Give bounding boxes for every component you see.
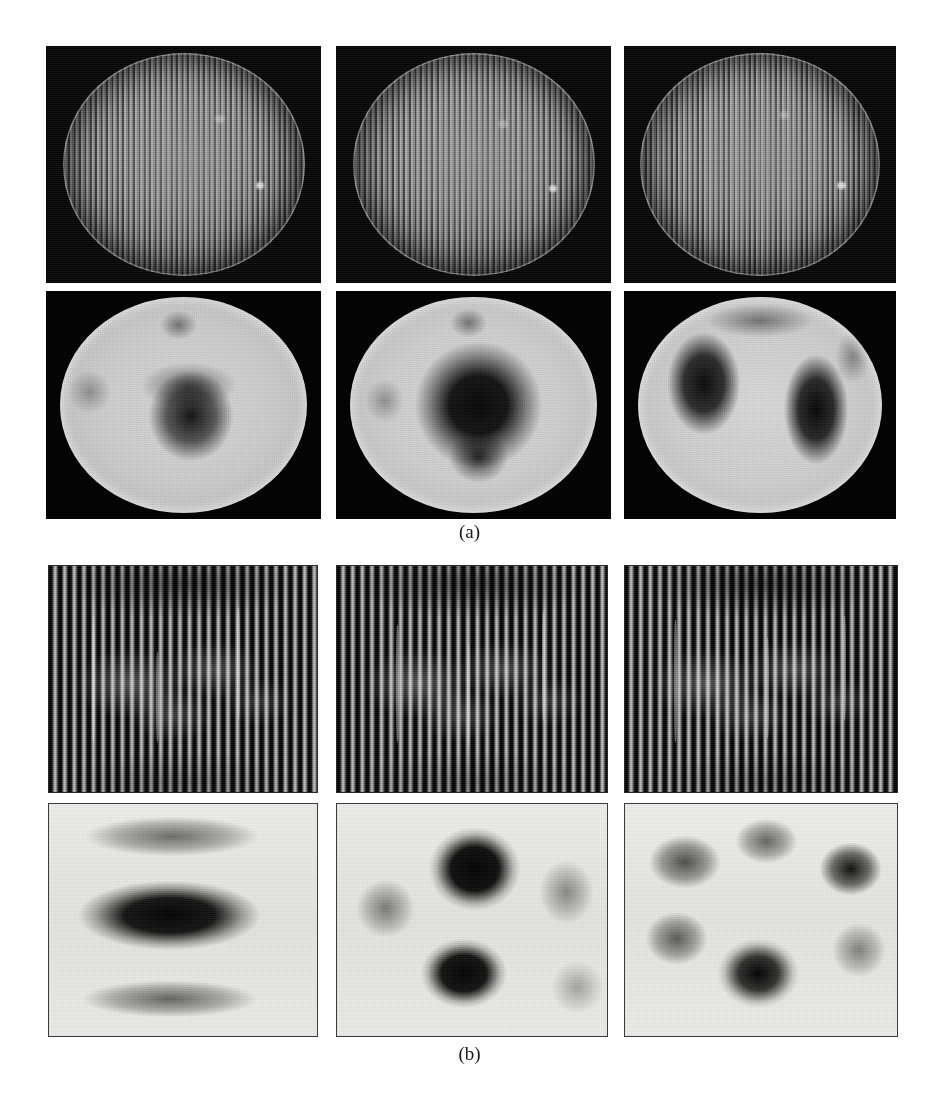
phase-rim [60, 297, 308, 514]
phase-rim [350, 297, 598, 514]
panel-a-r1-c3[interactable] [624, 46, 896, 283]
edge-shading [625, 566, 897, 792]
phase-rect-background [49, 804, 317, 1036]
fringe-ellipse-body [353, 53, 595, 276]
bright-streak [467, 643, 470, 747]
panel-b-r1-c2[interactable] [336, 565, 608, 793]
highlight-speck [837, 182, 846, 189]
fringe-ellipse-body [63, 53, 305, 276]
caption-b: (b) [0, 1043, 939, 1065]
subfigure-b: (b) [0, 555, 939, 1103]
panel-b-r2-c1[interactable] [48, 803, 318, 1037]
fringe-rim [63, 53, 305, 276]
caption-a: (a) [0, 521, 939, 543]
panel-b-r2-c2[interactable] [336, 803, 608, 1037]
fringe-rim [640, 53, 879, 276]
subfigure-a: (a) [0, 0, 939, 555]
bright-streak [843, 616, 846, 720]
panel-a-r2-c2[interactable] [336, 291, 611, 519]
highlight-speck [498, 120, 508, 128]
panel-a-r1-c2[interactable] [336, 46, 611, 283]
bright-streak [92, 616, 95, 743]
edge-shading [49, 566, 317, 792]
phase-rect-background [625, 804, 897, 1036]
panel-a-r1-c1[interactable] [46, 46, 321, 283]
panel-a-r2-c3[interactable] [624, 291, 896, 519]
phase-rim [638, 297, 883, 514]
figure-root: (a) [0, 0, 939, 1103]
phase-ellipse-body [638, 297, 883, 514]
panel-a-r2-c1[interactable] [46, 291, 321, 519]
highlight-speck [549, 185, 557, 192]
phase-rect-background [337, 804, 607, 1036]
panel-b-r2-c3[interactable] [624, 803, 898, 1037]
bright-streak [674, 620, 677, 742]
panel-b-r1-c3[interactable] [624, 565, 898, 793]
edge-shading [337, 566, 607, 792]
phase-ellipse-body [60, 297, 308, 514]
panel-b-r1-c1[interactable] [48, 565, 318, 793]
fringe-ellipse-body [640, 53, 879, 276]
fringe-rim [353, 53, 595, 276]
bright-streak [237, 607, 240, 720]
phase-ellipse-body [350, 297, 598, 514]
bright-streak [542, 611, 545, 719]
